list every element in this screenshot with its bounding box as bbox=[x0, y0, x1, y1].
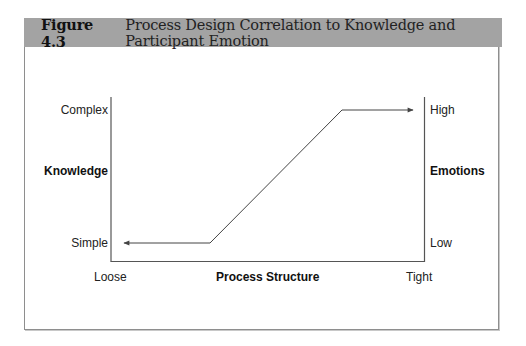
right-axis-title: Emotions bbox=[430, 164, 485, 178]
right-axis-top-label: High bbox=[430, 103, 455, 117]
bottom-axis-left-label: Loose bbox=[94, 270, 127, 284]
left-axis-title: Knowledge bbox=[44, 164, 108, 178]
bottom-axis-title: Process Structure bbox=[216, 270, 319, 284]
correlation-curve bbox=[124, 110, 413, 243]
left-axis-top-label: Complex bbox=[61, 103, 108, 117]
right-axis-bottom-label: Low bbox=[430, 236, 452, 250]
left-axis-bottom-label: Simple bbox=[71, 236, 108, 250]
bottom-axis-right-label: Tight bbox=[406, 270, 432, 284]
